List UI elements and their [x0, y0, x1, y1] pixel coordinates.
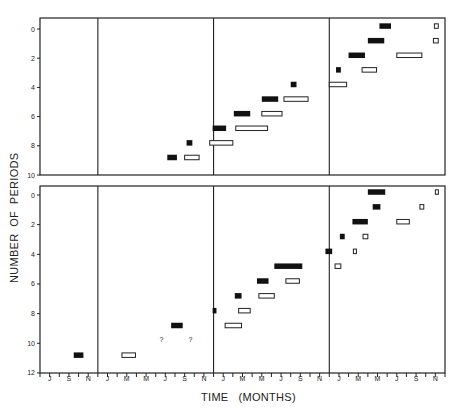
filled-bar	[234, 111, 250, 117]
y-tick-label: 6	[31, 113, 35, 120]
y-tick-label: 8	[31, 310, 35, 317]
open-bar	[239, 308, 251, 313]
month-label: M	[355, 375, 361, 382]
filled-bar	[352, 219, 367, 225]
month-label: N	[317, 375, 322, 382]
month-label: S	[414, 375, 419, 382]
filled-bar	[74, 352, 84, 358]
month-label: J	[48, 375, 52, 382]
month-label: M	[143, 375, 149, 382]
month-label: S	[67, 375, 72, 382]
filled-bar	[274, 263, 302, 269]
month-label: N	[433, 375, 438, 382]
month-label: J	[164, 375, 168, 382]
filled-bar	[262, 96, 278, 102]
month-label: J	[279, 375, 283, 382]
month-label: M	[259, 375, 265, 382]
y-tick-label: 2	[31, 55, 35, 62]
month-label: N	[201, 375, 206, 382]
month-label: S	[298, 375, 303, 382]
y-tick-label: 12	[27, 369, 35, 376]
filled-bar	[336, 67, 341, 73]
y-tick-label: 8	[31, 142, 35, 149]
chart-bars	[74, 23, 439, 358]
periods-chart: 0246810024681012??JSNJMMJSNJMMJSNJMMJSN …	[0, 0, 457, 413]
filled-bar	[257, 278, 269, 284]
month-label: J	[337, 375, 341, 382]
y-tick-label: 0	[31, 192, 35, 199]
question-mark-annotation: ?	[160, 336, 164, 343]
question-mark-annotation: ?	[188, 336, 192, 343]
open-bar	[286, 279, 300, 284]
month-label: J	[395, 375, 399, 382]
month-label: S	[182, 375, 187, 382]
filled-bar	[291, 82, 297, 88]
open-bar	[210, 141, 233, 146]
filled-bar	[340, 234, 345, 240]
month-label: M	[375, 375, 381, 382]
y-tick-label: 4	[31, 251, 35, 258]
open-bar	[353, 249, 356, 254]
open-bar	[397, 219, 410, 224]
open-bar	[434, 24, 438, 29]
month-label: J	[106, 375, 110, 382]
y-tick-label: 6	[31, 280, 35, 287]
y-tick-label: 2	[31, 221, 35, 228]
filled-bar	[349, 53, 365, 59]
open-bar	[262, 111, 282, 116]
open-bar	[397, 53, 422, 58]
open-bar	[236, 126, 268, 131]
open-bar	[435, 190, 438, 195]
filled-bar	[325, 249, 332, 255]
filled-bar	[235, 293, 242, 299]
open-bar	[362, 68, 376, 73]
open-bar	[363, 234, 368, 239]
open-bar	[185, 155, 199, 160]
month-label: M	[124, 375, 130, 382]
filled-bar	[368, 189, 385, 195]
panel-frame-bottom	[40, 186, 445, 373]
filled-bar	[213, 308, 217, 314]
open-bar	[259, 294, 274, 299]
filled-bar	[379, 23, 391, 29]
open-bar	[225, 323, 241, 328]
y-tick-label: 10	[27, 172, 35, 179]
filled-bar	[213, 126, 227, 132]
month-label: J	[221, 375, 225, 382]
filled-bar	[187, 140, 193, 146]
open-bar	[420, 205, 424, 210]
filled-bar	[167, 155, 177, 161]
y-tick-label: 4	[31, 84, 35, 91]
open-bar	[329, 82, 346, 87]
month-label: M	[240, 375, 246, 382]
filled-bar	[171, 323, 183, 329]
x-axis-title: TIME (MONTHS)	[201, 391, 296, 403]
filled-bar	[368, 38, 384, 44]
open-bar	[433, 38, 438, 43]
y-axis-title: NUMBER OF PERIODS	[8, 153, 20, 283]
y-tick-label: 0	[31, 26, 35, 33]
filled-bar	[373, 204, 381, 210]
y-tick-label: 10	[27, 340, 35, 347]
open-bar	[335, 264, 341, 269]
open-bar	[122, 353, 136, 358]
month-label: N	[86, 375, 91, 382]
chart-labels: 0246810024681012??JSNJMMJSNJMMJSNJMMJSN	[27, 26, 438, 383]
open-bar	[284, 97, 308, 102]
